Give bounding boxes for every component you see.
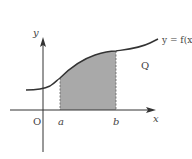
area-under-curve-diagram: y = f(x) Q O a b x y (0, 0, 192, 159)
y-axis-label: y (32, 27, 39, 38)
upper-bound-label: b (113, 116, 119, 127)
shaded-region (60, 51, 116, 110)
region-label: Q (141, 60, 149, 71)
x-axis-label: x (153, 113, 159, 124)
origin-label: O (33, 116, 41, 127)
lower-bound-label: a (58, 116, 64, 127)
curve-label: y = f(x) (161, 35, 192, 45)
